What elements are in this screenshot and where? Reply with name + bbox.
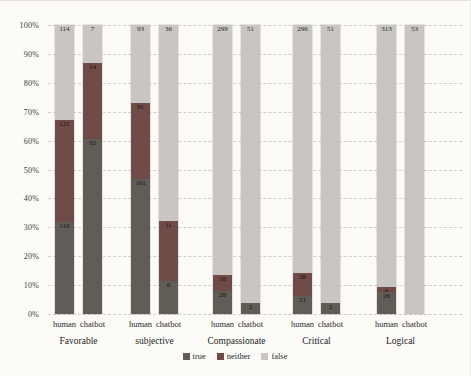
segment-value-label: 114 xyxy=(51,26,78,34)
y-tick-label: 30% xyxy=(24,223,39,232)
y-tick-label: 90% xyxy=(24,49,39,58)
x-label-chatbot: chatbot xyxy=(402,319,427,329)
segment-value-label: 7 xyxy=(79,26,106,34)
segment-value-label: 313 xyxy=(373,26,400,34)
bar-compassionate-human: 2991828 xyxy=(213,25,232,314)
y-tick-label: 50% xyxy=(24,165,39,174)
y-tick-label: 60% xyxy=(24,136,39,145)
category-label: Critical xyxy=(302,336,331,346)
bar-segment-neither: 121 xyxy=(55,120,74,221)
category-label: Favorable xyxy=(60,336,98,346)
x-label-chatbot: chatbot xyxy=(156,319,181,329)
segment-value-label: 14 xyxy=(79,64,106,72)
bar-segment-neither: 18 xyxy=(213,275,232,290)
bar-logical-chatbot: 53 xyxy=(405,25,424,314)
segment-value-label: 11 xyxy=(155,222,182,230)
bar-segment-neither: 14 xyxy=(83,63,102,139)
bar-segment-neither: 91 xyxy=(131,103,150,179)
segment-value-label: 110 xyxy=(51,223,78,231)
segment-value-label: 161 xyxy=(127,180,154,188)
bar-logical-human: 313626 xyxy=(377,25,396,314)
plot-area: 1141211107143293911613611629918285122962… xyxy=(48,25,462,314)
y-axis: 100%90%80%70%60%50%40%30%20%10%0% xyxy=(0,25,44,314)
legend-label: true xyxy=(193,351,206,361)
bar-segment-false: 296 xyxy=(293,25,312,273)
y-tick-label: 70% xyxy=(24,107,39,116)
y-tick-label: 10% xyxy=(24,281,39,290)
legend-item-neither: neither xyxy=(217,351,251,361)
bar-segment-false: 36 xyxy=(159,25,178,221)
bar-segment-true: 21 xyxy=(293,296,312,314)
bar-critical-chatbot: 512 xyxy=(321,25,340,314)
legend-swatch-false xyxy=(261,353,268,360)
bar-segment-true: 161 xyxy=(131,179,150,314)
bar-segment-true: 26 xyxy=(377,292,396,314)
x-label-human: human xyxy=(129,319,152,329)
legend-swatch-true xyxy=(183,353,190,360)
y-tick-label: 20% xyxy=(24,252,39,261)
bar-segment-true: 32 xyxy=(83,139,102,313)
bar-subjective-human: 9391161 xyxy=(131,25,150,314)
bar-compassionate-chatbot: 512 xyxy=(241,25,260,314)
bar-segment-true: 6 xyxy=(159,281,178,314)
segment-value-label: 121 xyxy=(51,121,78,129)
x-label-chatbot: chatbot xyxy=(238,319,263,329)
segment-value-label: 91 xyxy=(127,104,154,112)
segment-value-label: 299 xyxy=(209,26,236,34)
segment-value-label: 93 xyxy=(127,26,154,34)
segment-value-label: 32 xyxy=(79,140,106,148)
bar-segment-false: 313 xyxy=(377,25,396,287)
x-axis: humanchatbotFavorablehumanchatbotsubject… xyxy=(48,314,462,356)
segment-value-label: 21 xyxy=(289,297,316,305)
x-label-chatbot: chatbot xyxy=(318,319,343,329)
y-tick-label: 80% xyxy=(24,78,39,87)
x-label-human: human xyxy=(291,319,314,329)
segment-value-label: 51 xyxy=(237,26,264,34)
segment-value-label: 36 xyxy=(155,26,182,34)
segment-value-label: 28 xyxy=(209,292,236,300)
segment-value-label: 28 xyxy=(289,274,316,282)
legend-item-true: true xyxy=(183,351,206,361)
x-label-human: human xyxy=(211,319,234,329)
y-tick-label: 0% xyxy=(28,310,39,319)
bar-segment-true: 2 xyxy=(321,303,340,314)
legend-swatch-neither xyxy=(217,353,224,360)
segment-value-label: 51 xyxy=(317,26,344,34)
x-label-chatbot: chatbot xyxy=(80,319,105,329)
category-label: subjective xyxy=(135,336,174,346)
bar-segment-false: 53 xyxy=(405,25,424,314)
bar-segment-neither: 28 xyxy=(293,273,312,296)
legend-label: false xyxy=(271,351,287,361)
bar-segment-true: 110 xyxy=(55,222,74,314)
x-label-human: human xyxy=(375,319,398,329)
bar-segment-false: 7 xyxy=(83,25,102,63)
legend-item-false: false xyxy=(261,351,287,361)
legend: trueneitherfalse xyxy=(0,351,470,361)
category-label: Logical xyxy=(386,336,415,346)
segment-value-label: 6 xyxy=(155,282,182,290)
bar-segment-false: 51 xyxy=(241,25,260,303)
stacked-bar-chart: 100%90%80%70%60%50%40%30%20%10%0% 114121… xyxy=(0,0,471,376)
bar-favorable-human: 114121110 xyxy=(55,25,74,314)
segment-value-label: 2 xyxy=(317,304,344,312)
bar-segment-neither: 11 xyxy=(159,221,178,281)
bar-critical-human: 2962821 xyxy=(293,25,312,314)
segment-value-label: 296 xyxy=(289,26,316,34)
x-label-human: human xyxy=(53,319,76,329)
bar-segment-true: 2 xyxy=(241,303,260,314)
bar-segment-false: 93 xyxy=(131,25,150,103)
bar-segment-true: 28 xyxy=(213,291,232,314)
category-label: Compassionate xyxy=(207,336,265,346)
y-tick-label: 100% xyxy=(20,21,39,30)
bar-segment-false: 114 xyxy=(55,25,74,120)
segment-value-label: 18 xyxy=(209,276,236,284)
segment-value-label: 2 xyxy=(237,304,264,312)
y-tick-label: 40% xyxy=(24,194,39,203)
legend-label: neither xyxy=(227,351,251,361)
segment-value-label: 53 xyxy=(401,26,428,34)
bar-segment-false: 51 xyxy=(321,25,340,303)
bar-favorable-chatbot: 71432 xyxy=(83,25,102,314)
bar-segment-false: 299 xyxy=(213,25,232,275)
segment-value-label: 26 xyxy=(373,293,400,301)
bar-subjective-chatbot: 36116 xyxy=(159,25,178,314)
